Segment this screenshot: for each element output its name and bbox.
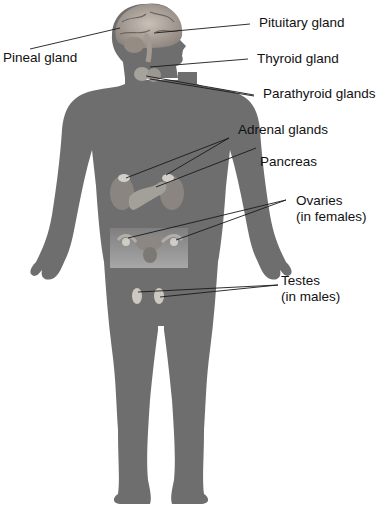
label-parathyroid-glands: Parathyroid glands	[263, 86, 376, 102]
label-pineal-gland: Pineal gland	[3, 50, 77, 66]
endocrine-diagram: Pituitary gland Pineal gland Thyroid gla…	[0, 0, 377, 514]
label-adrenal-glands: Adrenal glands	[238, 122, 328, 138]
label-pituitary-gland: Pituitary gland	[259, 15, 345, 31]
label-ovaries: Ovaries	[296, 193, 343, 209]
label-pancreas: Pancreas	[260, 154, 317, 170]
label-ovaries-note: (in females)	[296, 209, 367, 225]
label-testes-note: (in males)	[281, 289, 340, 305]
label-testes: Testes	[281, 273, 320, 289]
label-thyroid-gland: Thyroid gland	[257, 51, 339, 67]
body-silhouette-figure	[0, 0, 377, 514]
ovaries-illustration	[110, 228, 188, 268]
